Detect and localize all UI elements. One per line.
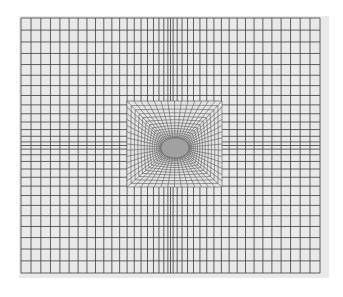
- center-hole: [161, 138, 189, 158]
- mesh-diagram: [0, 0, 343, 297]
